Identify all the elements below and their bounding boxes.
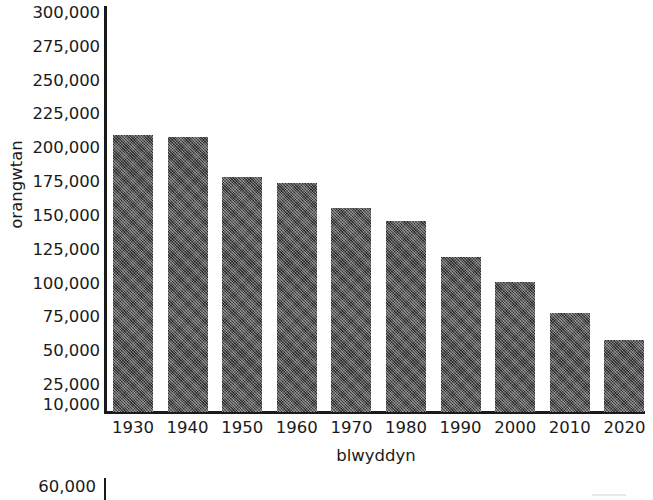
bar [168, 137, 208, 412]
bar [386, 221, 426, 412]
page-edge-artifact [592, 494, 626, 496]
y-axis-tick-label: 250,000 [4, 73, 100, 89]
y-axis-tick-label: 50,000 [4, 343, 100, 359]
bar [277, 183, 317, 412]
bar [550, 313, 590, 412]
y-axis-tick-label: 225,000 [4, 106, 100, 122]
y-axis-tick-label: 75,000 [4, 309, 100, 325]
x-axis-title: blwyddyn [107, 446, 645, 465]
bar-chart-figure: orangwtan 300,000275,000250,000225,00020… [0, 0, 653, 470]
bar [331, 208, 371, 412]
y-axis-tick-label: 150,000 [4, 208, 100, 224]
secondary-y-tick-label: 60,000 [0, 478, 96, 496]
bar [604, 340, 644, 412]
bar [113, 135, 153, 412]
y-axis-tick-label: 300,000 [4, 5, 100, 21]
y-axis-tick-label: 100,000 [4, 276, 100, 292]
y-axis-tick-label: 275,000 [4, 39, 100, 55]
plot-area [107, 8, 645, 412]
bar [222, 177, 262, 412]
y-axis-tick-label: 125,000 [4, 242, 100, 258]
secondary-y-axis-line [104, 478, 106, 500]
y-axis-tick-label: 200,000 [4, 140, 100, 156]
bar [495, 282, 535, 412]
y-axis-tick-labels: 300,000275,000250,000225,000200,000175,0… [0, 0, 100, 420]
y-axis-tick-label: 175,000 [4, 174, 100, 190]
y-axis-tick-label: 25,000 [4, 377, 100, 393]
x-axis-tick-label: 2020 [589, 418, 653, 438]
y-axis-tick-label: 10,000 [4, 397, 100, 413]
secondary-partial-figure: 60,000 [0, 470, 653, 498]
bar [441, 257, 481, 413]
x-axis-tick-labels: 1930194019501960197019801990200020102020 [107, 0, 653, 50]
